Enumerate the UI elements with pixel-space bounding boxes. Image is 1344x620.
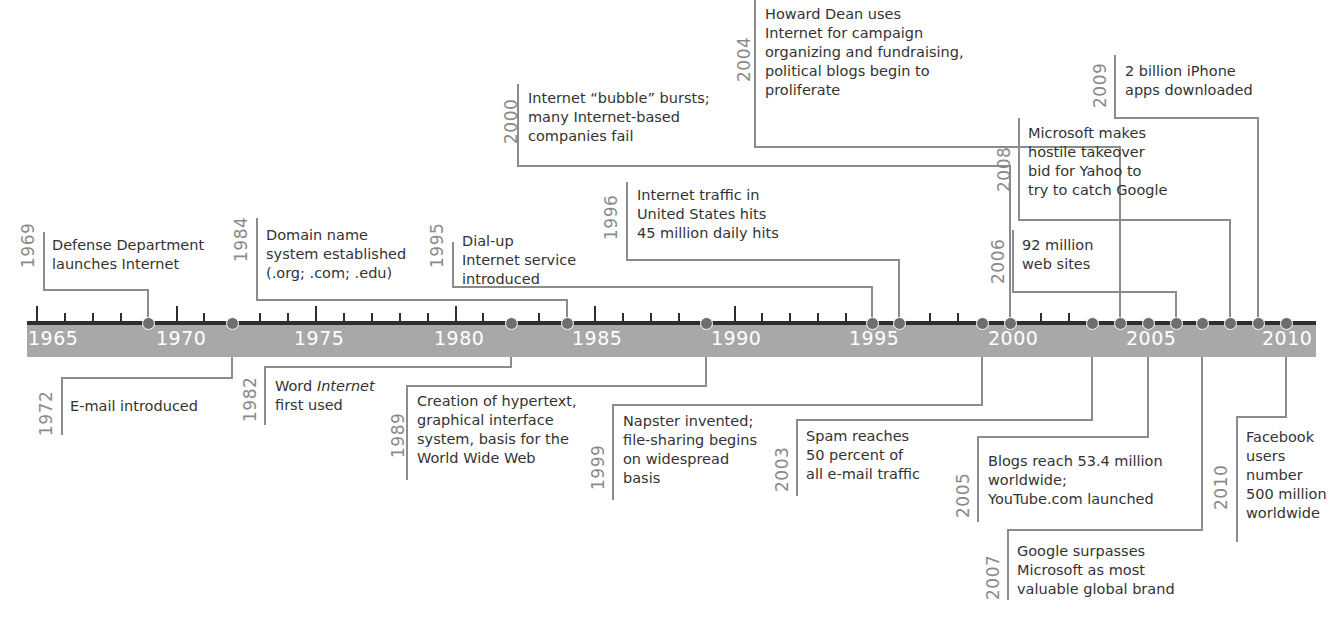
event-year-1972: 1972 [36, 391, 56, 436]
event-year-2004: 2004 [734, 37, 754, 82]
event-text-1999: Napster invented; file-sharing begins on… [623, 412, 757, 488]
axis-tick [203, 313, 205, 322]
event-dot-2005 [1142, 317, 1155, 330]
event-text-2007: Google surpasses Microsoft as most valua… [1017, 542, 1175, 599]
event-year-1969: 1969 [18, 223, 38, 268]
event-year-2003: 2003 [772, 447, 792, 492]
event-dot-1984 [561, 317, 574, 330]
event-year-1982: 1982 [240, 377, 260, 422]
event-text-2009: 2 billion iPhone apps downloaded [1125, 62, 1253, 100]
axis-tick [315, 306, 317, 322]
axis-tick [371, 313, 373, 322]
event-dot-1982 [505, 317, 518, 330]
event-text-1984: Domain name system established (.org; .c… [266, 226, 406, 283]
event-year-2007: 2007 [983, 555, 1003, 600]
axis-tick [399, 313, 401, 322]
event-year-1989: 1989 [388, 413, 408, 458]
event-text-1995: Dial-up Internet service introduced [462, 232, 576, 289]
event-text-2004: Howard Dean uses Internet for campaign o… [765, 5, 964, 100]
event-year-2000: 2000 [501, 99, 521, 144]
axis-tick [343, 313, 345, 322]
event-text-2005: Blogs reach 53.4 million worldwide; YouT… [988, 452, 1163, 509]
event-text-1969: Defense Department launches Internet [52, 236, 204, 274]
axis-label-1980: 1980 [434, 327, 484, 349]
axis-tick [92, 313, 94, 322]
axis-label-1965: 1965 [28, 327, 78, 349]
axis-tick [789, 313, 791, 322]
axis-tick [594, 306, 596, 322]
event-dot-2007 [1196, 317, 1209, 330]
axis-tick [176, 306, 178, 322]
event-text-2008: Microsoft makes hostile takeover bid for… [1028, 124, 1167, 200]
event-dot-1989 [700, 317, 713, 330]
event-dot-2004 [1114, 317, 1127, 330]
event-text-1989: Creation of hypertext, graphical interfa… [417, 392, 577, 468]
event-dot-2006 [1170, 317, 1183, 330]
axis-label-1990: 1990 [711, 327, 761, 349]
axis-label-2010: 2010 [1262, 327, 1312, 349]
axis-label-1970: 1970 [156, 327, 206, 349]
axis-tick [845, 313, 847, 322]
event-year-2009: 2009 [1090, 63, 1110, 108]
axis-tick [650, 313, 652, 322]
event-year-1999: 1999 [588, 445, 608, 490]
axis-label-1995: 1995 [849, 327, 899, 349]
axis-tick [957, 313, 959, 322]
event-year-1995: 1995 [427, 223, 447, 268]
event-year-2005: 2005 [953, 473, 973, 518]
axis-tick [929, 313, 931, 322]
event-dot-2003 [1086, 317, 1099, 330]
event-year-2006: 2006 [988, 239, 1008, 284]
axis-label-2005: 2005 [1126, 327, 1176, 349]
axis-tick [36, 306, 38, 322]
axis-tick [287, 313, 289, 322]
axis-tick [817, 313, 819, 322]
event-text-2006: 92 million web sites [1022, 236, 1093, 274]
event-dot-2008 [1224, 317, 1237, 330]
axis-tick [1040, 313, 1042, 322]
event-dot-1996 [893, 317, 906, 330]
axis-tick [259, 313, 261, 322]
event-year-1996: 1996 [601, 195, 621, 240]
axis-tick [761, 313, 763, 322]
event-text-1972: E-mail introduced [70, 397, 198, 416]
axis-tick [427, 313, 429, 322]
event-text-2000: Internet “bubble” bursts; many Internet-… [528, 89, 710, 146]
axis-tick [538, 313, 540, 322]
axis-label-2000: 2000 [988, 327, 1038, 349]
event-text-1996: Internet traffic in United States hits 4… [637, 186, 779, 243]
event-dot-1972 [226, 317, 239, 330]
event-text-2003: Spam reaches 50 percent of all e-mail tr… [806, 427, 920, 484]
event-text-2010: Facebook users number 500 million worldw… [1246, 428, 1327, 523]
axis-tick [1068, 313, 1070, 322]
timeline-diagram: 1965 1970 1975 1980 1985 1990 1995 2000 … [0, 0, 1344, 620]
line-word: Word Internet [275, 378, 375, 394]
event-text-1982: Word Internet first used [275, 377, 375, 415]
event-year-2010: 2010 [1211, 465, 1231, 510]
event-dot-2010 [1280, 317, 1293, 330]
axis-tick [734, 306, 736, 322]
event-dot-1995 [866, 317, 879, 330]
event-dot-1969 [142, 317, 155, 330]
event-year-2008: 2008 [994, 147, 1014, 192]
event-dot-2000 [1004, 317, 1017, 330]
event-dot-1999 [976, 317, 989, 330]
axis-tick [482, 313, 484, 322]
event-year-1984: 1984 [231, 217, 251, 262]
axis-tick [455, 306, 457, 322]
axis-tick [678, 313, 680, 322]
axis-label-1975: 1975 [294, 327, 344, 349]
axis-tick [120, 313, 122, 322]
axis-label-1985: 1985 [572, 327, 622, 349]
axis-tick [64, 313, 66, 322]
axis-tick [622, 313, 624, 322]
event-dot-2009 [1252, 317, 1265, 330]
